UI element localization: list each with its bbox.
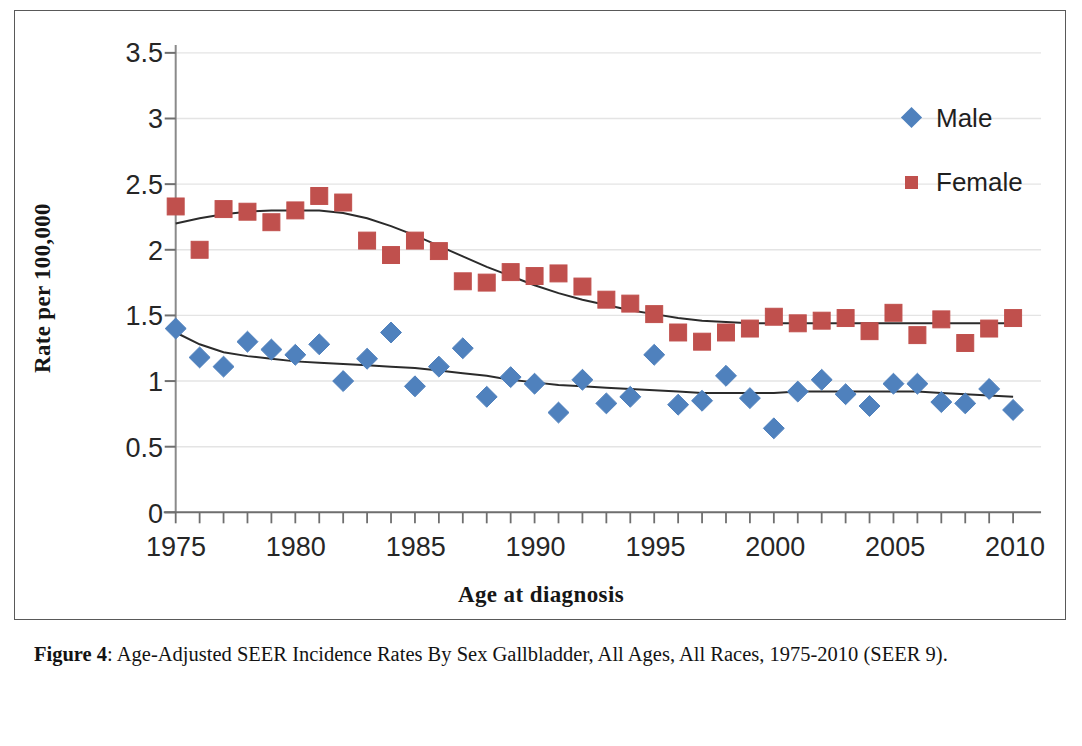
figure-page: 00.511.522.533.5 19751980198519901995200… (0, 0, 1082, 746)
diamond-marker-icon (901, 107, 923, 129)
legend-item-female: Female (901, 161, 1061, 203)
x-axis-tick-label: 2010 (985, 532, 1045, 563)
legend-item-male: Male (901, 97, 1061, 139)
legend-label-male: Male (936, 103, 992, 134)
figure-caption-label: Figure 4 (34, 643, 107, 665)
x-axis-tick-label: 2005 (865, 532, 925, 563)
figure-caption-text: : Age-Adjusted SEER Incidence Rates By S… (107, 643, 948, 665)
x-axis-tick-label: 1985 (386, 532, 446, 563)
x-axis-tick-label: 2000 (745, 532, 805, 563)
x-axis-tick-label: 1990 (506, 532, 566, 563)
x-axis-tick-label: 1995 (625, 532, 685, 563)
legend-label-female: Female (936, 167, 1023, 198)
figure-caption: Figure 4: Age-Adjusted SEER Incidence Ra… (34, 639, 1044, 669)
chart-legend: Male Female (901, 97, 1061, 225)
x-axis-tick-label: 1980 (266, 532, 326, 563)
y-axis-title: Rate per 100,000 (30, 168, 56, 408)
x-axis-tick-label: 1975 (146, 532, 206, 563)
square-marker-icon (901, 171, 923, 193)
chart-frame: 00.511.522.533.5 19751980198519901995200… (14, 10, 1066, 620)
x-axis-title: Age at diagnosis (15, 582, 1067, 608)
